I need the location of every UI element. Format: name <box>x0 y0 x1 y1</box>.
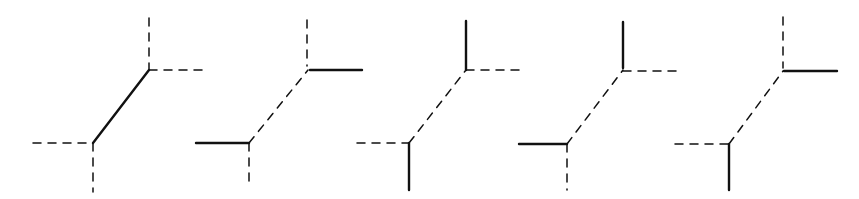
figure-5 <box>675 17 837 190</box>
diagonal-edge-dashed <box>249 70 308 143</box>
diagonal-edge-dashed <box>567 70 623 144</box>
figure-2 <box>196 20 362 188</box>
diagram-canvas <box>0 0 859 199</box>
diagonal-edge-dashed <box>409 70 466 143</box>
figure-4 <box>519 22 680 190</box>
figure-1 <box>33 18 204 192</box>
figure-3 <box>357 21 520 190</box>
diagonal-edge-dashed <box>729 71 783 144</box>
diagonal-edge-solid <box>93 70 149 143</box>
